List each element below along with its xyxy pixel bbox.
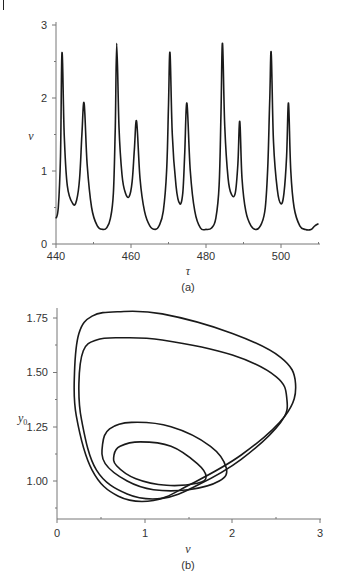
chart-a-y-ticks xyxy=(52,25,56,244)
chart-b-loop-line xyxy=(79,338,288,499)
chart-b-ytick-label: 1.25 xyxy=(27,421,48,433)
chart-a: 0 1 2 3 440 460 480 500 v τ (a) xyxy=(28,19,320,293)
chart-b-ylabel-subscript: 0 xyxy=(23,418,27,427)
chart-b-xtick-label: 1 xyxy=(142,527,148,539)
chart-a-xtick-label: 480 xyxy=(197,250,215,262)
chart-b-xtick-label: 0 xyxy=(54,527,60,539)
chart-a-ylabel: v xyxy=(28,129,34,143)
chart-a-series-line xyxy=(56,43,319,230)
chart-a-ytick-label: 0 xyxy=(41,238,47,250)
chart-b-ylabel: y0 xyxy=(17,411,27,427)
chart-b-phase-loops xyxy=(74,311,296,501)
chart-b-ytick-label: 1.75 xyxy=(27,312,48,324)
chart-b-panel-label: (b) xyxy=(181,559,194,571)
chart-a-ytick-label: 3 xyxy=(41,19,47,31)
chart-a-ytick-label: 1 xyxy=(41,165,47,177)
chart-b-ytick-label: 1.00 xyxy=(27,475,48,487)
chart-a-xtick-label: 500 xyxy=(272,250,290,262)
chart-b-y-ticks xyxy=(53,318,57,508)
chart-b: 1.00 1.25 1.50 1.75 0 1 2 3 y0 v (b) xyxy=(17,308,323,571)
chart-b-loop-line xyxy=(74,311,296,501)
chart-b-xtick-label: 3 xyxy=(317,527,323,539)
chart-a-panel-label: (a) xyxy=(181,281,194,293)
chart-a-xtick-label: 460 xyxy=(122,250,140,262)
chart-a-x-ticks xyxy=(56,242,319,248)
chart-b-xlabel: v xyxy=(185,542,191,556)
chart-b-xtick-label: 2 xyxy=(229,527,235,539)
figure: 0 1 2 3 440 460 480 500 v τ (a) xyxy=(0,0,340,588)
chart-b-ytick-label: 1.50 xyxy=(27,366,48,378)
chart-a-ytick-label: 2 xyxy=(41,92,47,104)
chart-b-loop-line xyxy=(114,442,207,486)
chart-a-xtick-label: 440 xyxy=(47,250,65,262)
chart-b-x-ticks xyxy=(57,517,320,523)
chart-a-xlabel: τ xyxy=(186,264,191,278)
